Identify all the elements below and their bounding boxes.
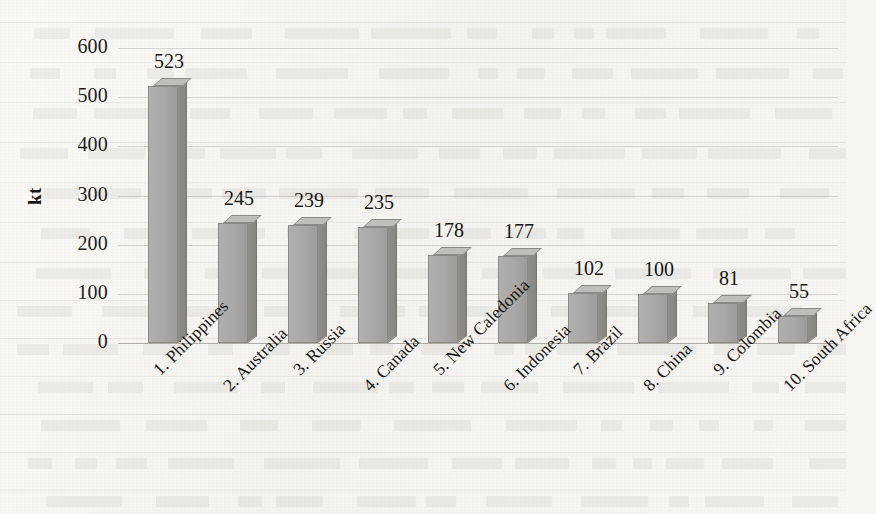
bar-value-label: 245 xyxy=(204,187,274,210)
bar-side-face xyxy=(388,220,397,343)
y-axis-tick-label: 200 xyxy=(56,232,108,255)
bar: 245 xyxy=(218,223,248,343)
bar-front-face xyxy=(428,255,458,343)
bar-side-face xyxy=(528,249,537,343)
y-axis-tick-label: 400 xyxy=(56,133,108,156)
plot-area: 5232452392351781771021008155 xyxy=(118,48,838,343)
bar-front-face xyxy=(358,227,388,343)
bar-front-face xyxy=(708,303,738,343)
y-axis-tick-label: 0 xyxy=(56,330,108,353)
bar-value-label: 55 xyxy=(764,280,834,303)
bar-front-face xyxy=(288,225,318,343)
bar-value-label: 102 xyxy=(554,257,624,280)
bar-value-label: 178 xyxy=(414,219,484,242)
bar-side-face xyxy=(178,79,187,343)
y-axis-tick-label: 300 xyxy=(56,183,108,206)
y-axis-tick-label: 600 xyxy=(56,35,108,58)
y-axis-tick-label: 100 xyxy=(56,281,108,304)
y-axis-tick-label: 500 xyxy=(56,84,108,107)
gridline xyxy=(118,48,838,49)
bar: 81 xyxy=(708,303,738,343)
bar: 100 xyxy=(638,294,668,343)
bar-value-label: 177 xyxy=(484,220,554,243)
bar-value-label: 523 xyxy=(134,50,204,73)
bar-value-label: 239 xyxy=(274,189,344,212)
gridline xyxy=(118,97,838,98)
bar-front-face xyxy=(638,294,668,343)
gridline xyxy=(118,146,838,147)
bar-value-label: 81 xyxy=(694,267,764,290)
bar-side-face xyxy=(668,287,677,343)
bar: 235 xyxy=(358,227,388,343)
bar: 523 xyxy=(148,86,178,343)
bar-side-face xyxy=(248,216,257,343)
bar: 239 xyxy=(288,225,318,343)
bar: 178 xyxy=(428,255,458,343)
bar-front-face xyxy=(148,86,178,343)
bar-side-face xyxy=(318,218,327,343)
bar-value-label: 235 xyxy=(344,191,414,214)
bar-value-label: 100 xyxy=(624,258,694,281)
bar-front-face xyxy=(218,223,248,343)
